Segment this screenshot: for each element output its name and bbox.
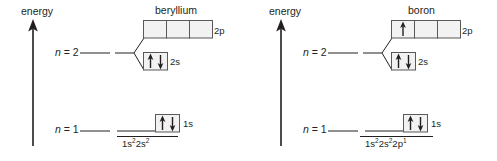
orbital-boxes-2p bbox=[144, 21, 213, 39]
energy-axis-arrow bbox=[28, 19, 38, 146]
orbital-boxes-1s bbox=[404, 115, 428, 133]
level-label-n1-value: 1 bbox=[321, 123, 327, 135]
config-part-sup: 2 bbox=[146, 137, 150, 144]
boron-lines-layer bbox=[248, 0, 497, 161]
orbital-boxes-2p bbox=[392, 21, 461, 39]
config-part-base: 2s bbox=[379, 138, 389, 149]
orbital-boxes-2s bbox=[144, 53, 168, 71]
level-fork-n2 bbox=[134, 38, 144, 70]
element-title-beryllium: beryllium bbox=[155, 5, 197, 16]
config-part-sup: 1 bbox=[403, 137, 407, 144]
config-part-base: 2s bbox=[136, 138, 146, 149]
level-label-n2: n = 2 bbox=[55, 47, 79, 58]
level-label-n2-value: 2 bbox=[321, 46, 327, 58]
energy-axis-label: energy bbox=[269, 6, 301, 17]
electron-configuration-label: 1s22s22p1 bbox=[365, 139, 407, 149]
level-label-n2-equals: = bbox=[309, 46, 321, 58]
orbital-label-2s: 2s bbox=[170, 57, 180, 67]
config-part-base: 1s bbox=[365, 138, 375, 149]
orbital-label-1s: 1s bbox=[431, 119, 441, 129]
config-part-base: 1s bbox=[122, 138, 132, 149]
orbital-label-2p: 2p bbox=[462, 26, 473, 36]
config-part-base: 2p bbox=[392, 138, 403, 149]
energy-axis-arrow bbox=[276, 19, 286, 146]
level-label-n1: n = 1 bbox=[303, 124, 327, 135]
level-label-n2-value: 2 bbox=[73, 46, 79, 58]
orbital-label-2s: 2s bbox=[418, 57, 428, 67]
orbital-boxes-1s bbox=[156, 115, 180, 133]
level-label-n1-equals: = bbox=[309, 123, 321, 135]
beryllium-lines-layer bbox=[0, 0, 249, 161]
level-label-n1-equals: = bbox=[61, 123, 73, 135]
electron-configuration-label: 1s22s2 bbox=[122, 139, 149, 149]
level-label-n1: n = 1 bbox=[55, 124, 79, 135]
level-label-n1-value: 1 bbox=[73, 123, 79, 135]
element-title-boron: boron bbox=[408, 5, 435, 16]
level-fork-n2 bbox=[382, 38, 392, 70]
panel-beryllium: energy beryllium n = 2 n = 1 2p 2s 1s 1s… bbox=[0, 0, 249, 161]
energy-axis-label: energy bbox=[21, 6, 53, 17]
orbital-label-2p: 2p bbox=[214, 26, 225, 36]
orbital-label-1s: 1s bbox=[183, 119, 193, 129]
level-label-n2: n = 2 bbox=[303, 47, 327, 58]
orbital-diagram-figure: energy beryllium n = 2 n = 1 2p 2s 1s 1s… bbox=[0, 0, 497, 161]
panel-boron: energy boron n = 2 n = 1 2p 2s 1s 1s22s2… bbox=[248, 0, 497, 161]
level-label-n2-equals: = bbox=[61, 46, 73, 58]
orbital-boxes-2s bbox=[392, 53, 416, 71]
